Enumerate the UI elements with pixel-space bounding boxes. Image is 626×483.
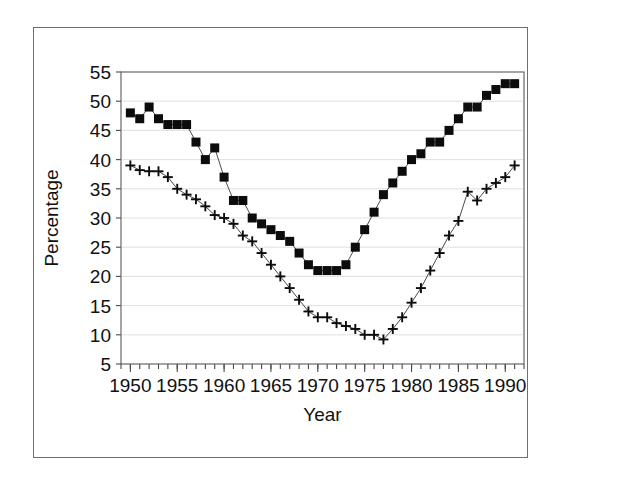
y-tick-label: 25 [90, 237, 111, 258]
x-tick-label: 1950 [109, 375, 151, 396]
y-tick-label: 5 [100, 354, 111, 375]
x-tick-label: 1980 [390, 375, 432, 396]
y-tick-label: 20 [90, 266, 111, 287]
data-point-square [210, 143, 219, 152]
data-point-square [313, 266, 322, 275]
x-tick-label: 1970 [297, 375, 339, 396]
x-axis-tick-labels: 195019551960196519701975198019851990 [109, 375, 526, 396]
x-tick-label: 1985 [437, 375, 479, 396]
data-point-square [445, 126, 454, 135]
series-line-plus [130, 165, 514, 339]
y-tick-label: 30 [90, 208, 111, 229]
x-tick-label: 1955 [156, 375, 198, 396]
data-point-square [416, 149, 425, 158]
data-point-square [304, 260, 313, 269]
y-tick-label: 45 [90, 120, 111, 141]
data-point-square [454, 114, 463, 123]
y-tick-label: 35 [90, 179, 111, 200]
data-point-square [370, 208, 379, 217]
data-point-square [332, 266, 341, 275]
data-point-square [173, 120, 182, 129]
data-point-square [285, 237, 294, 246]
data-point-square [276, 231, 285, 240]
y-tick-label: 55 [90, 62, 111, 83]
data-point-square [435, 138, 444, 147]
data-point-square [379, 190, 388, 199]
y-tick-label: 50 [90, 91, 111, 112]
data-point-square [341, 260, 350, 269]
series-plus [125, 160, 519, 344]
data-point-square [191, 138, 200, 147]
y-tick-label: 10 [90, 325, 111, 346]
x-tick-label: 1990 [484, 375, 526, 396]
x-tick-label: 1960 [203, 375, 245, 396]
x-axis-title: Year [303, 404, 342, 425]
data-point-square [295, 249, 304, 258]
series-line-square [130, 84, 514, 271]
gridlines-group [122, 101, 523, 335]
data-point-square [135, 114, 144, 123]
data-point-square [201, 155, 210, 164]
data-point-square [388, 178, 397, 187]
data-point-square [154, 114, 163, 123]
data-series-group [125, 79, 519, 344]
figure-root: 510152025303540455055 195019551960196519… [0, 0, 626, 483]
y-tick-label: 40 [90, 150, 111, 171]
x-tick-label: 1965 [250, 375, 292, 396]
data-point-square [266, 225, 275, 234]
data-point-square [482, 91, 491, 100]
data-point-square [238, 196, 247, 205]
data-point-square [248, 214, 257, 223]
data-point-square [491, 85, 500, 94]
data-point-square [145, 103, 154, 112]
data-point-square [323, 266, 332, 275]
y-axis-tick-labels: 510152025303540455055 [90, 62, 111, 375]
data-point-square [126, 108, 135, 117]
data-point-square [426, 138, 435, 147]
data-point-square [220, 173, 229, 182]
data-point-square [463, 103, 472, 112]
series-square [126, 79, 519, 275]
data-point-square [510, 79, 519, 88]
y-axis-ticks-group [116, 72, 121, 364]
x-tick-label: 1975 [344, 375, 386, 396]
data-point-square [473, 103, 482, 112]
data-point-square [163, 120, 172, 129]
data-point-square [407, 155, 416, 164]
data-point-square [229, 196, 238, 205]
data-point-square [501, 79, 510, 88]
data-point-square [360, 225, 369, 234]
x-axis-minor-ticks-group [121, 364, 524, 369]
data-point-square [182, 120, 191, 129]
data-point-square [398, 167, 407, 176]
y-axis-title: Percentage [41, 169, 62, 266]
data-point-square [257, 219, 266, 228]
chart-canvas: 510152025303540455055 195019551960196519… [0, 0, 626, 483]
data-point-square [351, 243, 360, 252]
y-tick-label: 15 [90, 296, 111, 317]
